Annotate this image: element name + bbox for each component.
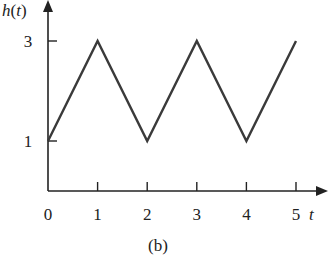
- x-ticks: 012345: [44, 182, 301, 224]
- x-axis-arrow-icon: [316, 186, 328, 196]
- x-axis-label: t: [309, 205, 315, 224]
- x-tick-label: 3: [193, 205, 202, 224]
- x-tick-label: 1: [93, 205, 102, 224]
- y-axis-label: h(t): [2, 1, 27, 20]
- axes: [43, 0, 328, 196]
- x-tick-label: 4: [242, 205, 251, 224]
- y-tick-label: 1: [24, 132, 33, 151]
- series-line-h: [48, 41, 296, 141]
- figure-caption: (b): [148, 236, 168, 255]
- x-tick-label: 5: [292, 205, 301, 224]
- x-tick-label: 2: [143, 205, 152, 224]
- y-axis-arrow-icon: [43, 0, 53, 12]
- y-tick-label: 3: [24, 32, 33, 51]
- x-tick-label: 0: [44, 205, 53, 224]
- chart: 012345 13 h(t) t (b): [0, 0, 329, 269]
